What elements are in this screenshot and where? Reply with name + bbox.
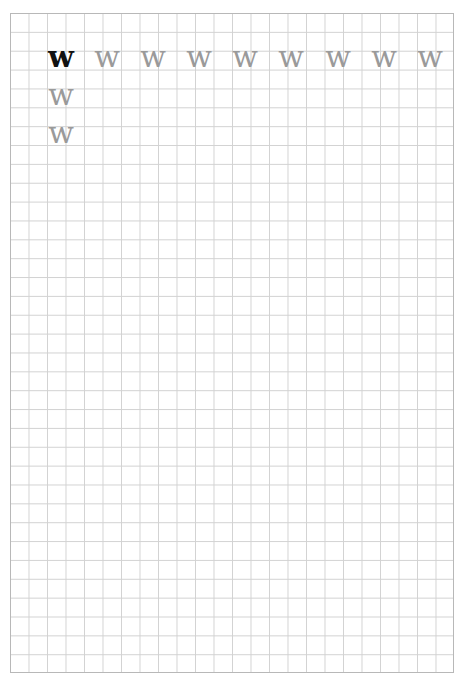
trace-letter: w [370,42,398,72]
trace-letter: w [185,42,213,72]
trace-letter: w [231,42,259,72]
trace-letter: w [277,42,305,72]
trace-letter: w [47,118,75,148]
trace-letter: w [324,42,352,72]
trace-letter: w [47,80,75,110]
trace-letter: w [93,42,121,72]
model-letter: w [47,42,75,72]
trace-letter: w [416,42,444,72]
trace-letter: w [139,42,167,72]
handwriting-grid-sheet [10,13,454,673]
